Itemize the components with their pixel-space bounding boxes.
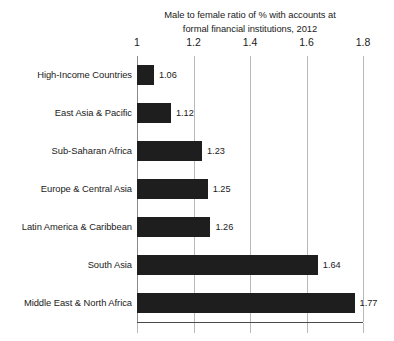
category-label: Latin America & Caribbean	[0, 217, 132, 237]
value-label: 1.64	[323, 255, 341, 275]
bar	[137, 141, 202, 161]
category-label: Sub-Saharan Africa	[0, 141, 132, 161]
x-tick-label-4: 1.8	[356, 36, 371, 48]
category-label: High-Income Countries	[0, 65, 132, 85]
gridline-4	[363, 56, 364, 322]
chart-title-line-1: Male to female ratio of % with accounts …	[137, 8, 363, 22]
gridline-2	[250, 56, 251, 322]
category-label: Middle East & North Africa	[0, 293, 132, 313]
x-tick-label-2: 1.4	[243, 36, 258, 48]
x-tick-mark-4	[363, 323, 364, 333]
x-tick-mark-3	[307, 323, 308, 333]
value-label: 1.26	[215, 217, 233, 237]
category-label: Europe & Central Asia	[0, 179, 132, 199]
bar	[137, 293, 355, 313]
x-tick-mark-0	[137, 323, 138, 333]
value-label: 1.77	[360, 293, 378, 313]
plot-area	[137, 56, 363, 322]
category-label: South Asia	[0, 255, 132, 275]
x-tick-mark-2	[250, 323, 251, 333]
value-label: 1.25	[213, 179, 231, 199]
x-tick-mark-1	[194, 323, 195, 333]
bar	[137, 217, 210, 237]
category-label: East Asia & Pacific	[0, 103, 132, 123]
chart-title: Male to female ratio of % with accounts …	[137, 8, 363, 35]
value-label: 1.06	[159, 65, 177, 85]
value-label: 1.23	[207, 141, 225, 161]
bar	[137, 255, 318, 275]
chart-title-line-2: formal financial institutions, 2012	[137, 22, 363, 36]
x-tick-label-1: 1.2	[186, 36, 201, 48]
bar	[137, 103, 171, 123]
horizontal-bar-chart: Male to female ratio of % with accounts …	[0, 0, 394, 341]
bar	[137, 179, 208, 199]
gridline-3	[307, 56, 308, 322]
x-tick-label-0: 1	[134, 36, 140, 48]
value-label: 1.12	[176, 103, 194, 123]
bar	[137, 65, 154, 85]
x-tick-label-3: 1.6	[299, 36, 314, 48]
x-axis-tick-labels: 11.21.41.61.8	[0, 36, 394, 52]
